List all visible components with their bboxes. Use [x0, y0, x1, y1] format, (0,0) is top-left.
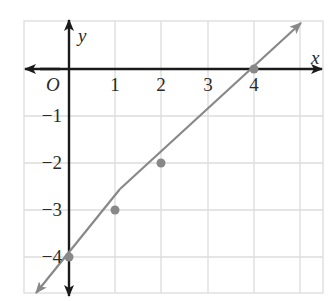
- origin-label: O: [46, 74, 60, 95]
- line-upper-arrow-icon: [120, 23, 301, 189]
- line-series: [36, 23, 301, 293]
- tick-y-neg2: −2: [42, 152, 62, 173]
- tick-y-neg4: −4: [42, 246, 63, 267]
- point-1-neg3: [111, 206, 120, 215]
- y-axis-label: y: [76, 25, 87, 46]
- tick-x-3: 3: [203, 74, 213, 95]
- tick-x-2: 2: [156, 74, 166, 95]
- tick-y-neg3: −3: [42, 199, 62, 220]
- tick-y-neg1: −1: [42, 105, 62, 126]
- tick-x-1: 1: [110, 74, 120, 95]
- point-2-neg2: [157, 159, 166, 168]
- coordinate-plane: y x O 1 2 3 4 −1 −2 −3 −4: [0, 0, 334, 301]
- tick-x-4: 4: [249, 74, 259, 95]
- point-4-0: [250, 65, 259, 74]
- x-axis-label: x: [310, 47, 320, 68]
- point-0-neg4: [65, 253, 74, 262]
